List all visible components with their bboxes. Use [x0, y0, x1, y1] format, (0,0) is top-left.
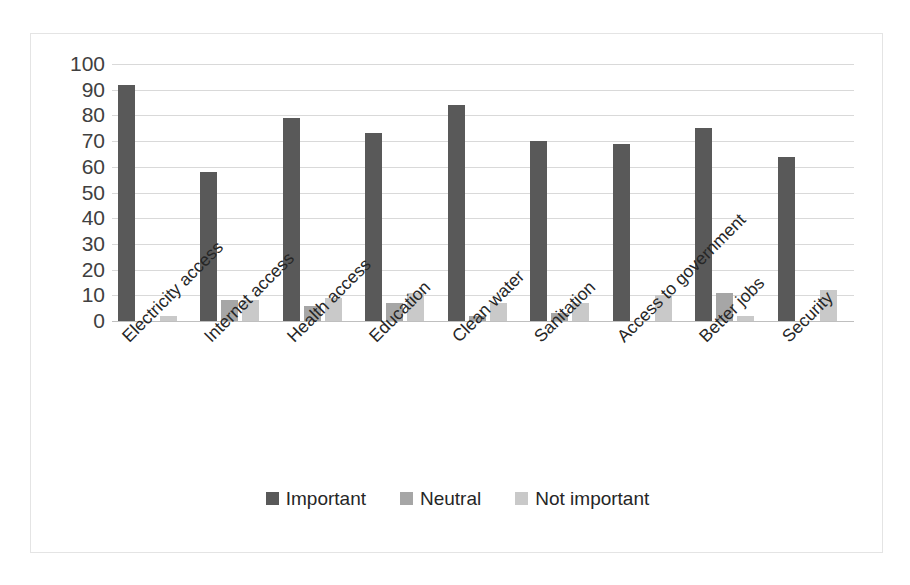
- bar: [530, 141, 547, 321]
- legend-swatch-icon: [400, 492, 413, 505]
- bar: [118, 85, 135, 321]
- bar-group: [772, 64, 854, 321]
- y-axis-tick-labels: 1009080706050403020100: [45, 64, 105, 321]
- y-axis-tick-label: 50: [53, 182, 105, 203]
- bar: [737, 316, 754, 321]
- bar: [365, 133, 382, 321]
- bar: [160, 316, 177, 321]
- bar: [695, 128, 712, 321]
- y-axis-tick-label: 40: [53, 207, 105, 228]
- bar: [283, 118, 300, 321]
- legend-label: Neutral: [420, 489, 481, 508]
- chart-container: 1009080706050403020100 Electricity acces…: [30, 33, 883, 553]
- y-axis-tick-label: 20: [53, 259, 105, 280]
- y-axis-tick-label: 70: [53, 130, 105, 151]
- x-axis-category-labels: Electricity accessInternet accessHealth …: [112, 326, 854, 456]
- bar: [778, 157, 795, 321]
- plot-wrapper: 1009080706050403020100 Electricity acces…: [31, 34, 884, 554]
- legend-item[interactable]: Neutral: [400, 489, 481, 508]
- legend-swatch-icon: [515, 492, 528, 505]
- legend-swatch-icon: [266, 492, 279, 505]
- y-axis-tick-label: 10: [53, 284, 105, 305]
- legend-label: Important: [286, 489, 366, 508]
- y-axis-tick-label: 60: [53, 156, 105, 177]
- legend-item[interactable]: Important: [266, 489, 366, 508]
- bar-group: [359, 64, 441, 321]
- bar: [448, 105, 465, 321]
- y-axis-tick-label: 0: [53, 310, 105, 331]
- legend-item[interactable]: Not important: [515, 489, 649, 508]
- y-axis-tick-label: 80: [53, 104, 105, 125]
- legend-label: Not important: [535, 489, 649, 508]
- y-axis-tick-label: 100: [53, 53, 105, 74]
- bar: [613, 144, 630, 321]
- chart-legend: ImportantNeutralNot important: [31, 489, 884, 508]
- y-axis-tick-label: 30: [53, 233, 105, 254]
- y-axis-tick-label: 90: [53, 79, 105, 100]
- bar-group: [524, 64, 606, 321]
